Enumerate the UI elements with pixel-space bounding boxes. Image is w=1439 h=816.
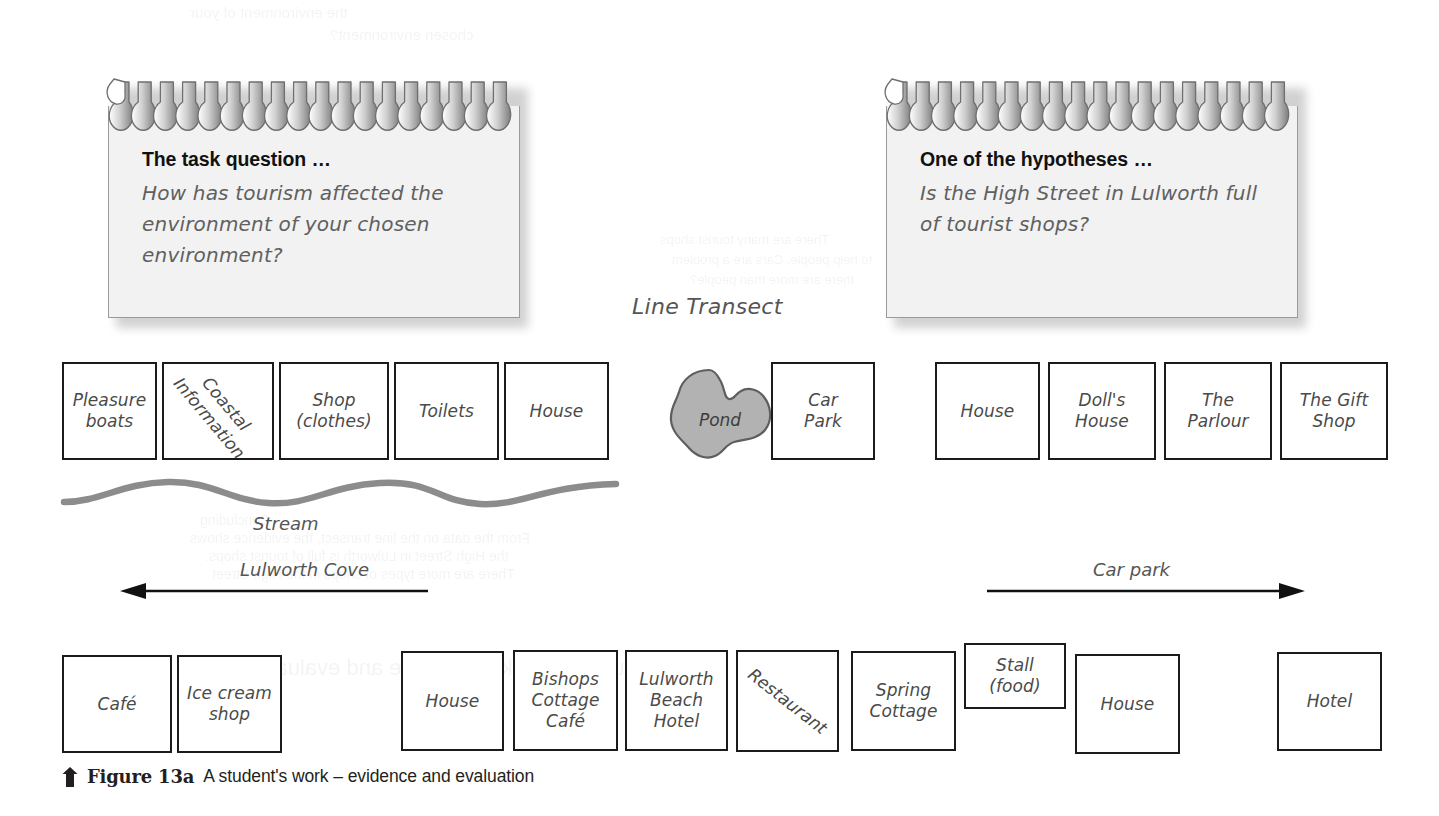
sticky-note-task-question: The task question … How has tourism affe…	[108, 78, 520, 318]
transect-box-pleasure-boats: Pleasure boats	[62, 362, 157, 460]
stream-label: Stream	[253, 513, 319, 534]
box-label: House	[1101, 694, 1155, 715]
pond-shape: Pond	[668, 366, 776, 462]
stream-line	[60, 474, 620, 510]
note-text-block: One of the hypotheses … Is the High Stre…	[920, 148, 1280, 240]
box-label: The Gift Shop	[1300, 390, 1368, 432]
transect-box-coastal-information: Coastal Information	[162, 362, 274, 460]
transect-box-house-top-right: House	[935, 362, 1040, 460]
note-question: How has tourism affected the environment…	[142, 178, 502, 271]
box-label: Bishops Cottage Café	[532, 669, 600, 732]
box-label: Coastal Information	[169, 362, 267, 460]
box-label: The Parlour	[1187, 390, 1248, 432]
transect-box-house-bottom-2: House	[1075, 654, 1180, 754]
figure-number: Figure 13a	[87, 766, 194, 787]
up-arrow-icon	[62, 767, 78, 787]
spiral-binding-icon	[108, 78, 520, 144]
transect-box-spring-cottage: Spring Cottage	[851, 651, 956, 751]
bleed-text: the environment of your	[190, 4, 348, 21]
note-question: Is the High Street in Lulworth full of t…	[920, 178, 1280, 240]
transect-box-restaurant: Restaurant	[736, 650, 839, 752]
transect-box-the-parlour: The Parlour	[1164, 362, 1272, 460]
transect-box-hotel: Hotel	[1277, 652, 1382, 751]
bleed-text: to help people. Cars are a problem	[672, 252, 872, 267]
box-label: House	[530, 401, 584, 422]
transect-box-ice-cream-shop: Ice cream shop	[177, 655, 282, 753]
transect-box-stall-food: Stall (food)	[964, 643, 1066, 709]
box-label: Car Park	[804, 390, 842, 432]
note-title: The task question …	[142, 148, 502, 171]
box-label: Pleasure boats	[73, 390, 147, 432]
box-label: House	[426, 691, 480, 712]
transect-box-house-top-left: House	[504, 362, 609, 460]
bleed-text: chosen environment?	[330, 26, 473, 43]
arrow-car-park	[985, 580, 1305, 602]
transect-box-toilets: Toilets	[394, 362, 499, 460]
bleed-text: From the data on the line transect, the …	[190, 530, 530, 546]
box-label: Spring Cottage	[870, 680, 938, 722]
box-label: Shop (clothes)	[296, 390, 371, 432]
arrow-left-icon	[120, 580, 430, 602]
transect-box-the-gift-shop: The Gift Shop	[1280, 362, 1388, 460]
box-label: Toilets	[419, 401, 474, 422]
box-label: Café	[97, 694, 136, 715]
figure-caption-text: A student's work – evidence and evaluati…	[203, 766, 534, 787]
arrow-lulworth-cove	[120, 580, 430, 602]
box-label: Ice cream shop	[187, 683, 272, 725]
transect-box-shop-clothes: Shop (clothes)	[279, 362, 389, 460]
spiral-binding-icon	[886, 78, 1298, 144]
arrow-right-icon	[985, 580, 1305, 602]
bleed-text: There are many tourist shops	[660, 232, 829, 247]
box-label: Lulworth Beach Hotel	[639, 669, 714, 732]
figure-caption: Figure 13a A student's work – evidence a…	[62, 766, 534, 787]
arrow-label-lulworth-cove: Lulworth Cove	[240, 559, 369, 580]
pond-label: Pond	[666, 372, 774, 468]
sticky-note-hypothesis: One of the hypotheses … Is the High Stre…	[886, 78, 1298, 318]
figure-canvas: the environment of your chosen environme…	[0, 0, 1439, 816]
transect-box-lulworth-beach-hotel: Lulworth Beach Hotel	[625, 650, 728, 751]
transect-box-dolls-house: Doll's House	[1048, 362, 1156, 460]
transect-box-cafe: Café	[62, 655, 172, 753]
transect-box-car-park: Car Park	[771, 362, 875, 460]
arrow-label-car-park: Car park	[1093, 559, 1170, 580]
box-label: House	[961, 401, 1015, 422]
box-label: Stall (food)	[989, 655, 1040, 697]
bleed-text: there are more than people?	[690, 272, 854, 287]
transect-title: Line Transect	[632, 294, 783, 319]
transect-box-bishops-cottage-cafe: Bishops Cottage Café	[513, 650, 618, 751]
box-label: Restaurant	[744, 664, 832, 739]
stream-icon	[60, 474, 620, 510]
box-label: Doll's House	[1075, 390, 1129, 432]
box-label: Hotel	[1307, 691, 1353, 712]
note-text-block: The task question … How has tourism affe…	[142, 148, 502, 271]
transect-box-house-bottom-1: House	[401, 651, 504, 751]
note-title: One of the hypotheses …	[920, 148, 1280, 171]
